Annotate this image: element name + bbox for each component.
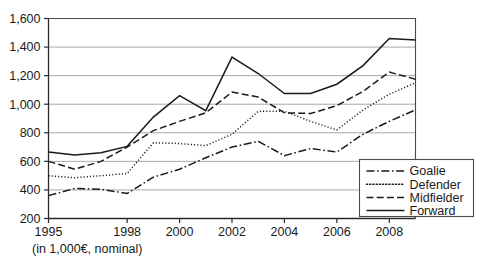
y-tick-label: 600 (20, 155, 41, 169)
series-line-forward (49, 39, 416, 155)
legend-label-forward: Forward (410, 204, 456, 218)
line-chart: 2004006008001,0001,2001,4001,600 1995199… (0, 0, 477, 272)
legend-label-defender: Defender (410, 178, 461, 192)
x-axis-ticks (49, 219, 390, 224)
chart-canvas: 2004006008001,0001,2001,4001,600 1995199… (0, 0, 477, 272)
x-tick-label: 2004 (271, 225, 299, 239)
x-tick-label: 1998 (113, 225, 141, 239)
x-tick-label: 2002 (218, 225, 246, 239)
y-tick-label: 1,000 (9, 98, 40, 112)
x-tick-label: 2000 (166, 225, 194, 239)
x-tick-label: 2006 (323, 225, 351, 239)
legend-label-goalie: Goalie (410, 164, 446, 178)
x-tick-label: 2008 (375, 225, 403, 239)
chart-legend: GoalieDefenderMidfielderForward (360, 160, 474, 219)
legend-label-midfielder: Midfielder (410, 191, 464, 205)
y-tick-label: 1,600 (9, 12, 40, 26)
y-tick-label: 1,400 (9, 40, 40, 54)
axis-caption: (in 1,000€, nominal) (32, 242, 142, 256)
y-tick-label: 400 (20, 183, 41, 197)
y-tick-label: 1,200 (9, 69, 40, 83)
y-axis-ticks (44, 19, 49, 219)
x-tick-label: 1995 (35, 225, 63, 239)
axis-caption-text: (in 1,000€, nominal) (32, 242, 142, 256)
y-tick-label: 800 (20, 126, 41, 140)
x-axis-tick-labels: 1995199820002002200420062008 (35, 225, 404, 239)
y-axis-tick-labels: 2004006008001,0001,2001,4001,600 (9, 12, 40, 226)
series-line-midfielder (49, 72, 416, 169)
